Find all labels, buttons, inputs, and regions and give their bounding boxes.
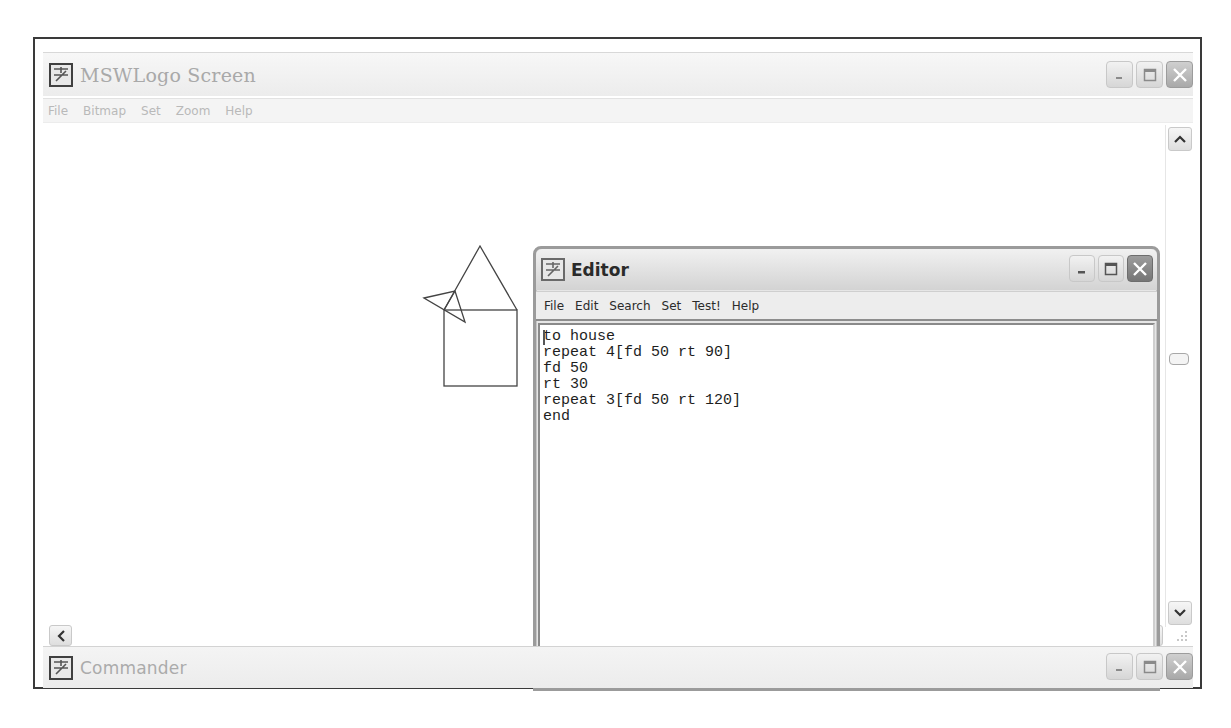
maximize-icon [1104,262,1118,276]
menu-set[interactable]: Set [141,104,161,118]
close-button[interactable] [1166,61,1193,88]
maximize-icon [1143,660,1157,674]
code-line: repeat 3[fd 50 rt 120] [543,393,1153,409]
chevron-left-icon [56,630,66,642]
editor-window-controls [1069,255,1153,282]
commander-close-button[interactable] [1166,653,1193,680]
menu-help[interactable]: Help [225,104,252,118]
code-line: end [543,409,1153,425]
editor-app-icon [541,258,565,281]
close-icon [1172,67,1188,83]
minimize-icon [1114,661,1126,673]
maximize-icon [1143,68,1157,82]
editor-close-button[interactable] [1127,255,1153,282]
commander-window-controls [1106,653,1193,680]
commander-minimize-button[interactable] [1106,653,1133,680]
vertical-scroll-thumb[interactable] [1169,353,1189,365]
commander-title: Commander [80,658,187,678]
menu-zoom[interactable]: Zoom [176,104,211,118]
main-window-title: MSWLogo Screen [80,64,256,86]
editor-menu-help[interactable]: Help [732,299,759,313]
editor-menu-file[interactable]: File [544,299,564,313]
commander-maximize-button[interactable] [1136,653,1163,680]
menu-file[interactable]: File [48,104,68,118]
editor-menu-set[interactable]: Set [662,299,682,313]
code-line: to house [543,329,1153,345]
vertical-scrollbar[interactable] [1165,125,1193,627]
chevron-down-icon [1174,608,1186,618]
editor-menu-test[interactable]: Test! [692,299,720,313]
minimize-icon [1076,263,1088,275]
scroll-left-button[interactable] [49,625,72,646]
editor-menu-edit[interactable]: Edit [575,299,598,313]
close-icon [1172,659,1188,675]
minimize-button[interactable] [1106,61,1133,88]
resize-grip[interactable] [1165,625,1193,647]
maximize-button[interactable] [1136,61,1163,88]
commander-app-icon [49,656,73,680]
editor-minimize-button[interactable] [1069,255,1095,282]
editor-menubar: File Edit Search Set Test! Help [536,291,1157,321]
editor-title: Editor [571,260,629,280]
code-line: rt 30 [543,377,1153,393]
main-menubar: File Bitmap Set Zoom Help [43,98,1193,123]
scroll-down-button[interactable] [1168,601,1192,625]
chevron-up-icon [1174,134,1186,144]
minimize-icon [1114,69,1126,81]
close-icon [1132,261,1148,277]
main-titlebar[interactable]: MSWLogo Screen [43,52,1193,96]
mswlogo-screen-window: MSWLogo Screen File Bitmap Set Zoom Help [43,52,1193,647]
turtle-line [444,291,455,310]
code-line: repeat 4[fd 50 rt 90] [543,345,1153,361]
house-roof [444,246,517,310]
editor-window: Editor File Edit [533,246,1160,691]
house-square [444,310,517,386]
editor-titlebar[interactable]: Editor [536,249,1157,290]
mswlogo-app-icon [49,63,73,87]
screenshot-frame: MSWLogo Screen File Bitmap Set Zoom Help [33,37,1202,689]
commander-window[interactable]: Commander [43,646,1193,688]
main-window-controls [1106,61,1193,88]
resize-grip-icon [1165,625,1193,647]
menu-bitmap[interactable]: Bitmap [83,104,126,118]
editor-text-area[interactable]: to house repeat 4[fd 50 rt 90] fd 50 rt … [538,323,1155,686]
scroll-up-button[interactable] [1168,127,1192,151]
drawing-canvas[interactable]: Editor File Edit [43,125,1193,647]
editor-maximize-button[interactable] [1098,255,1124,282]
editor-menu-search[interactable]: Search [609,299,650,313]
text-cursor [543,330,545,345]
code-line: fd 50 [543,361,1153,377]
